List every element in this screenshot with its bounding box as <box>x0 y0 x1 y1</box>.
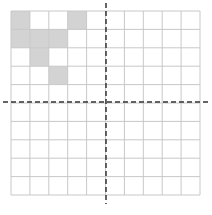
shaded-cell <box>68 11 87 29</box>
shaded-cell <box>11 29 30 47</box>
shaded-cell <box>49 66 68 84</box>
shaded-cell <box>30 48 49 66</box>
shaded-cell <box>11 11 30 29</box>
shaded-cell <box>30 29 49 47</box>
shaded-cell <box>49 29 68 47</box>
grid-diagram <box>0 0 212 215</box>
